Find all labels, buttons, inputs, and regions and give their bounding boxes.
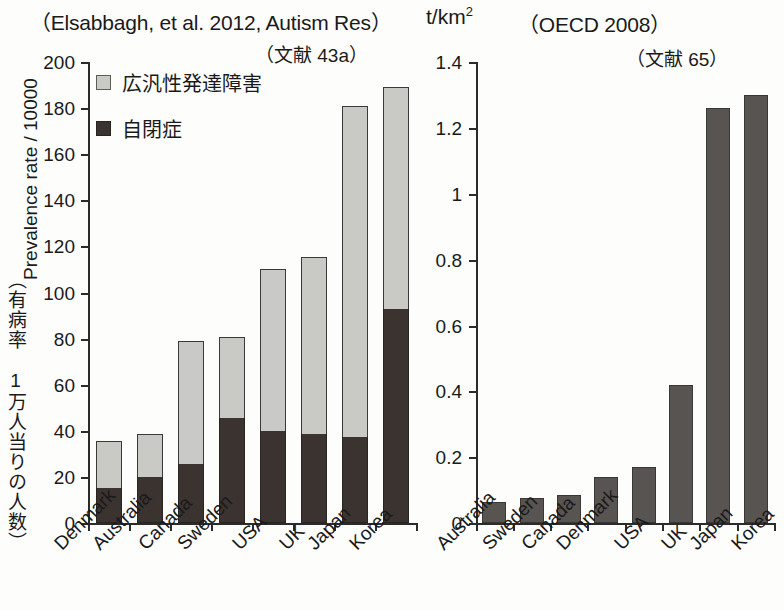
left-ytick-80: 80: [20, 329, 75, 351]
right-ytick-0-8: 0.8: [412, 250, 462, 272]
left-ytick-20: 20: [20, 467, 75, 489]
figure-page: （Elsabbagh, et al. 2012, Autism Res） （文献…: [0, 0, 784, 610]
right-y-axis: [476, 62, 478, 524]
legend-label-pdd: 広汎性発達障害: [122, 68, 262, 97]
left-ytick-100: 100: [20, 283, 75, 305]
left-y-axis: [88, 62, 90, 524]
bar-korea-autism: [383, 309, 409, 523]
bar-right-japan: [706, 108, 730, 523]
legend-swatch-pdd-icon: [96, 75, 111, 90]
right-ytick-0-6: 0.6: [412, 316, 462, 338]
right-ytick-0-4: 0.4: [412, 381, 462, 403]
left-ytick-180: 180: [20, 98, 75, 120]
bar-right-uk: [669, 385, 693, 523]
legend-label-autism: 自閉症: [122, 114, 182, 143]
right-unit-text: t/km: [426, 5, 466, 28]
right-ytick-1-4: 1.4: [412, 52, 462, 74]
right-ytick-0-2: 0.2: [412, 447, 462, 469]
right-unit-exponent: 2: [466, 4, 473, 19]
bar-usa-autism: [260, 431, 286, 523]
bar-right-korea: [744, 95, 768, 523]
right-unit-label: t/km2: [426, 4, 473, 29]
left-ytick-140: 140: [20, 190, 75, 212]
right-chart-reference: （文献 65）: [626, 44, 728, 71]
left-chart-legend: 広汎性発達障害 自閉症: [96, 68, 262, 160]
left-ytick-160: 160: [20, 144, 75, 166]
right-ytick-1: 1: [412, 184, 462, 206]
bar-uk-autism: [301, 434, 327, 523]
left-ytick-40: 40: [20, 421, 75, 443]
left-chart-reference: （文献 43a）: [255, 40, 368, 67]
legend-item-pdd: 広汎性発達障害: [96, 68, 262, 97]
left-ytick-60: 60: [20, 375, 75, 397]
right-ytick-1-2: 1.2: [412, 118, 462, 140]
left-ytick-200: 200: [20, 52, 75, 74]
legend-item-autism: 自閉症: [96, 114, 262, 143]
left-y-axis-label-jp: （有病率 1万人当りの人数）: [4, 270, 26, 552]
legend-swatch-autism-icon: [96, 121, 111, 136]
left-chart-panel: （Elsabbagh, et al. 2012, Autism Res） （文献…: [0, 0, 420, 610]
right-chart-title: （OECD 2008）: [518, 8, 671, 38]
left-chart-title: （Elsabbagh, et al. 2012, Autism Res）: [30, 6, 392, 36]
left-ytick-120: 120: [20, 236, 75, 258]
right-chart-panel: t/km2 （OECD 2008） （文献 65） 1.4 1.2 1 0.8 …: [420, 0, 784, 610]
